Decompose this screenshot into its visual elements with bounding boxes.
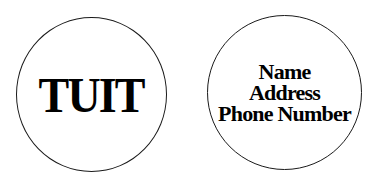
tuit-circle: TUIT xyxy=(16,17,167,172)
name-label: Name xyxy=(218,61,351,82)
contact-info-block: Name Address Phone Number xyxy=(218,61,351,124)
contact-info-circle: Name Address Phone Number xyxy=(207,15,362,170)
tuit-label: TUIT xyxy=(39,70,144,120)
phone-number-label: Phone Number xyxy=(218,103,351,124)
address-label: Address xyxy=(218,82,351,103)
